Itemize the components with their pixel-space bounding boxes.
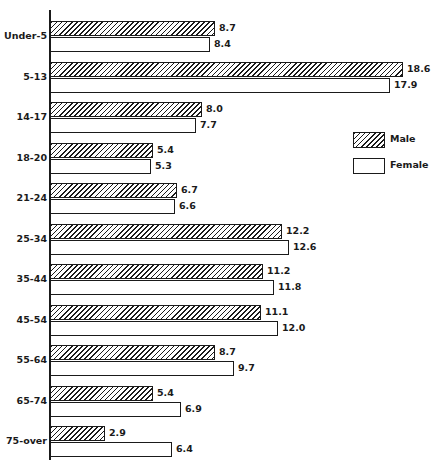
category-label: 14-17: [17, 111, 47, 122]
category-label: 25-34: [17, 233, 47, 244]
legend-swatch-female: [353, 158, 385, 174]
bar-female: [50, 321, 278, 336]
value-label-female: 11.8: [278, 281, 301, 292]
value-label-female: 6.9: [185, 403, 202, 414]
value-label-male: 8.7: [219, 346, 236, 357]
legend-label-female: Female: [390, 159, 429, 170]
bar-male: [50, 62, 403, 77]
bar-male: [50, 102, 202, 117]
value-label-male: 11.1: [265, 306, 288, 317]
value-label-female: 17.9: [394, 79, 417, 90]
bar-female: [50, 37, 210, 52]
bar-female: [50, 118, 196, 133]
category-label: Under-5: [4, 30, 47, 41]
category-label: 35-44: [17, 273, 47, 284]
value-label-female: 6.4: [176, 443, 193, 454]
category-label: 5-13: [23, 71, 47, 82]
category-label: 18-20: [17, 152, 47, 163]
bar-male: [50, 183, 177, 198]
bar-male: [50, 305, 261, 320]
bar-female: [50, 361, 234, 376]
bar-female: [50, 240, 289, 255]
bar-female: [50, 199, 175, 214]
bar-male: [50, 143, 153, 158]
bar-female: [50, 280, 274, 295]
value-label-male: 6.7: [181, 184, 198, 195]
value-label-female: 8.4: [214, 38, 231, 49]
bar-male: [50, 21, 215, 36]
value-label-female: 12.6: [293, 241, 316, 252]
category-label: 65-74: [17, 395, 47, 406]
category-label: 75-over: [6, 435, 47, 446]
category-label: 55-64: [17, 354, 47, 365]
legend-label-male: Male: [390, 133, 416, 144]
bar-male: [50, 426, 105, 441]
value-label-male: 8.0: [206, 103, 223, 114]
bar-female: [50, 78, 390, 93]
bar-male: [50, 386, 153, 401]
value-label-male: 5.4: [157, 144, 174, 155]
value-label-male: 18.6: [407, 63, 430, 74]
value-label-female: 7.7: [200, 119, 217, 130]
value-label-male: 11.2: [267, 265, 290, 276]
value-label-male: 2.9: [109, 427, 126, 438]
value-label-male: 5.4: [157, 387, 174, 398]
bar-female: [50, 402, 181, 417]
value-label-female: 6.6: [179, 200, 196, 211]
bar-female: [50, 442, 172, 457]
bar-male: [50, 264, 263, 279]
bar-chart: Under-58.78.45-1318.617.914-178.07.718-2…: [0, 0, 437, 476]
value-label-male: 8.7: [219, 22, 236, 33]
category-label: 45-54: [17, 314, 47, 325]
value-label-male: 12.2: [286, 225, 309, 236]
bar-female: [50, 159, 151, 174]
value-label-female: 9.7: [238, 362, 255, 373]
value-label-female: 12.0: [282, 322, 305, 333]
bar-male: [50, 224, 282, 239]
bar-male: [50, 345, 215, 360]
category-label: 21-24: [17, 192, 47, 203]
value-label-female: 5.3: [155, 160, 172, 171]
legend-swatch-male: [353, 132, 385, 148]
